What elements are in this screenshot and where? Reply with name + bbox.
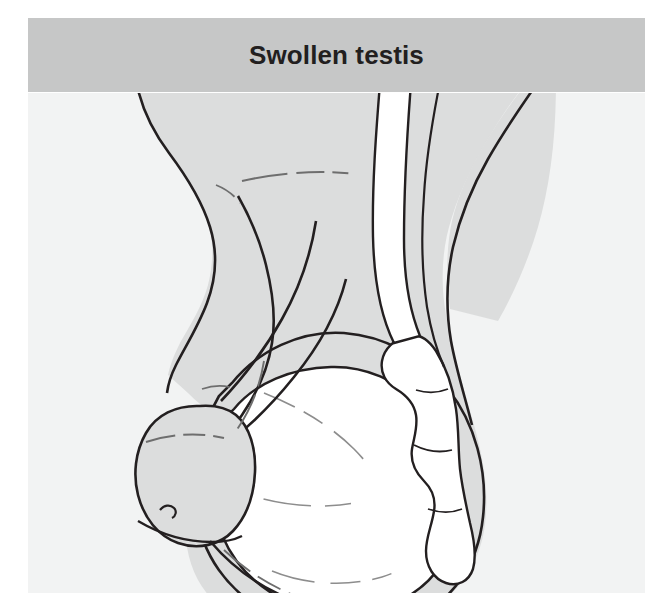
- figure-title: Swollen testis: [249, 42, 424, 68]
- illustration-panel: [28, 93, 645, 593]
- glans-penis: [135, 406, 255, 546]
- title-banner: Swollen testis: [28, 18, 645, 92]
- anatomy-illustration: [28, 93, 645, 593]
- figure-root: Swollen testis: [0, 0, 671, 608]
